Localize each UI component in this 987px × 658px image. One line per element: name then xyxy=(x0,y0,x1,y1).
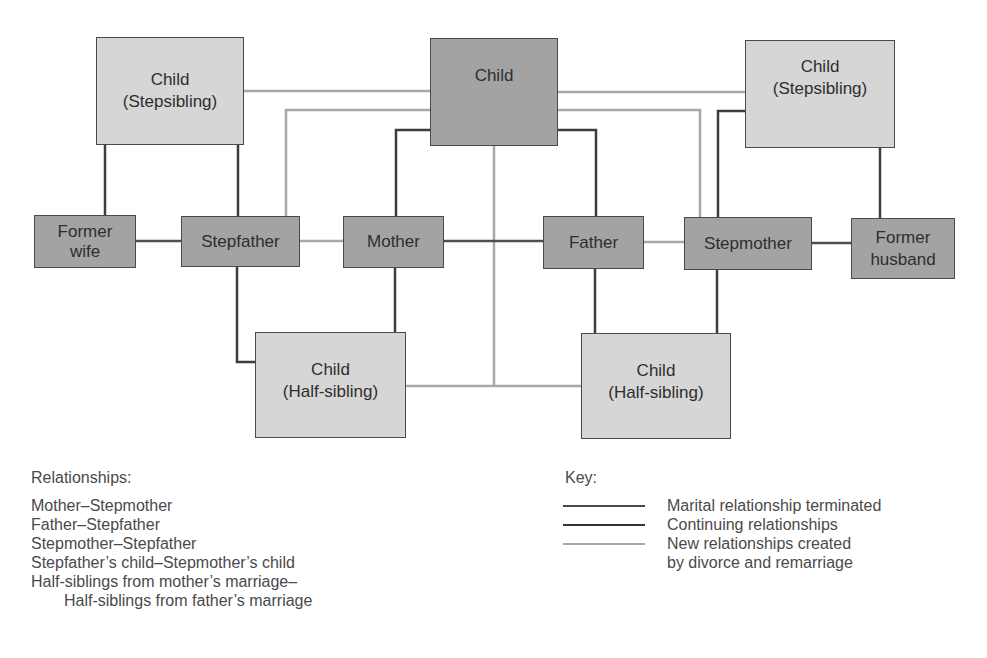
former-wife-node: Former wife xyxy=(34,215,136,268)
new-line-swatch xyxy=(563,543,645,545)
former-wife-label: Former wife xyxy=(58,222,113,262)
relationship-item: Stepmother–Stepfather xyxy=(31,534,312,553)
stepsibling-right-node: Child (Stepsibling) xyxy=(745,40,895,148)
stepfather-node: Stepfather xyxy=(181,216,300,267)
stepsibling-left-label: Child (Stepsibling) xyxy=(123,69,218,113)
relationship-item: Half-siblings from father’s marriage xyxy=(31,591,312,610)
halfsibling-right-node: Child (Half-sibling) xyxy=(581,333,731,439)
relationship-item: Father–Stepfather xyxy=(31,515,312,534)
halfsibling-right-label: Child (Half-sibling) xyxy=(608,360,703,404)
relationship-item: Mother–Stepmother xyxy=(31,496,312,515)
child-center-label: Child xyxy=(475,65,514,87)
father-label: Father xyxy=(569,232,618,254)
stepsibling-right-label: Child (Stepsibling) xyxy=(773,56,868,100)
stepsibling-left-node: Child (Stepsibling) xyxy=(96,37,244,145)
relationship-item: Stepfather’s child–Stepmother’s child xyxy=(31,553,312,572)
former-husband-label: Former husband xyxy=(870,227,935,271)
key-label: Continuing relationships xyxy=(667,515,838,534)
terminated-line-swatch xyxy=(563,505,645,507)
former-husband-node: Former husband xyxy=(851,218,955,279)
relationships-list: Mother–Stepmother Father–Stepfather Step… xyxy=(31,496,312,610)
key-title: Key: xyxy=(565,469,597,487)
stepmother-label: Stepmother xyxy=(704,233,792,255)
stepmother-node: Stepmother xyxy=(684,217,812,270)
mother-node: Mother xyxy=(343,216,444,268)
relationships-title: Relationships: xyxy=(31,469,132,487)
father-node: Father xyxy=(543,216,644,269)
child-center-node: Child xyxy=(430,38,558,146)
key-label: Marital relationship terminated xyxy=(667,496,881,515)
continuing-line-swatch xyxy=(563,524,645,526)
key-label: by divorce and remarriage xyxy=(667,553,853,572)
key-label: New relationships created xyxy=(667,534,851,553)
relationship-item: Half-siblings from mother’s marriage– xyxy=(31,572,312,591)
mother-label: Mother xyxy=(367,231,420,253)
stepfather-label: Stepfather xyxy=(201,231,279,253)
halfsibling-left-node: Child (Half-sibling) xyxy=(255,332,406,438)
halfsibling-left-label: Child (Half-sibling) xyxy=(283,359,378,403)
